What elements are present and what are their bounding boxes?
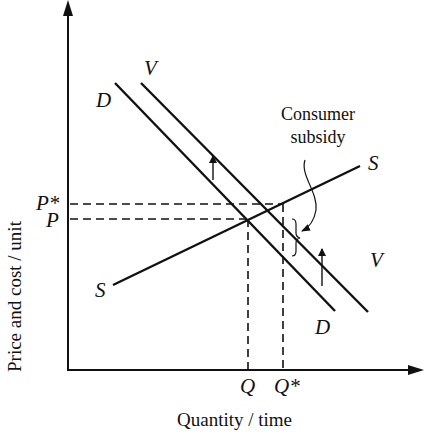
curve-label-v-upper: V <box>144 58 157 79</box>
curve-label-v-lower: V <box>370 250 383 271</box>
y-axis <box>63 0 73 370</box>
curve-label-s-left: S <box>95 280 106 301</box>
consumer-subsidy-annotation: Consumer subsidy <box>268 103 368 149</box>
annotation-line-2: subsidy <box>268 126 368 149</box>
x-axis-arrow-icon <box>408 365 424 375</box>
tick-label-q: Q <box>240 376 255 397</box>
subsidy-pointer-arrow-icon <box>302 160 316 231</box>
y-axis-arrow-icon <box>63 0 73 16</box>
tick-label-p: P <box>46 210 59 231</box>
curve-label-s-right: S <box>368 153 379 174</box>
diagram-canvas <box>0 0 424 437</box>
tick-label-q-star: Q* <box>274 376 300 397</box>
curve-label-d-lower: D <box>315 317 330 338</box>
y-axis-label: Price and cost / unit <box>4 221 26 372</box>
curve-label-d-upper: D <box>96 90 111 111</box>
annotation-line-1: Consumer <box>268 103 368 126</box>
x-axis-label: Quantity / time <box>177 410 292 429</box>
